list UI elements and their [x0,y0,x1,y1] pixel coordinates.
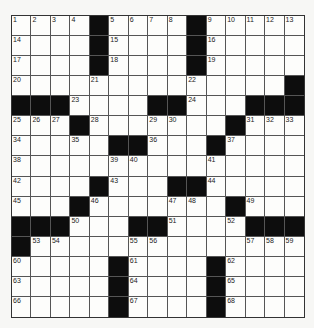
crossword-cell[interactable]: 39 [109,156,128,176]
crossword-cell[interactable] [148,177,167,197]
crossword-cell[interactable]: 24 [187,96,206,116]
crossword-cell[interactable]: 1 [12,16,31,36]
crossword-cell[interactable] [90,136,109,156]
crossword-cell[interactable] [148,36,167,56]
crossword-cell[interactable] [90,217,109,237]
crossword-cell[interactable]: 67 [129,297,148,317]
crossword-cell[interactable]: 34 [12,136,31,156]
crossword-cell[interactable] [90,156,109,176]
crossword-cell[interactable] [207,197,226,217]
crossword-cell[interactable] [90,297,109,317]
crossword-cell[interactable]: 60 [12,257,31,277]
crossword-cell[interactable]: 66 [12,297,31,317]
crossword-cell[interactable] [246,156,265,176]
crossword-cell[interactable] [31,257,50,277]
crossword-cell[interactable]: 36 [148,136,167,156]
crossword-cell[interactable] [70,257,89,277]
crossword-cell[interactable]: 23 [70,96,89,116]
crossword-cell[interactable]: 43 [109,177,128,197]
crossword-cell[interactable]: 41 [207,156,226,176]
crossword-cell[interactable] [90,237,109,257]
crossword-cell[interactable] [207,217,226,237]
crossword-cell[interactable] [226,156,245,176]
crossword-cell[interactable] [148,197,167,217]
crossword-cell[interactable] [51,56,70,76]
crossword-cell[interactable] [285,56,304,76]
crossword-cell[interactable]: 35 [70,136,89,156]
crossword-cell[interactable] [265,136,284,156]
crossword-cell[interactable] [168,56,187,76]
crossword-cell[interactable] [109,197,128,217]
crossword-cell[interactable] [109,217,128,237]
crossword-cell[interactable]: 26 [31,116,50,136]
crossword-cell[interactable] [129,197,148,217]
crossword-cell[interactable]: 7 [148,16,167,36]
crossword-cell[interactable] [70,237,89,257]
crossword-cell[interactable]: 48 [187,197,206,217]
crossword-cell[interactable] [31,76,50,96]
crossword-cell[interactable]: 22 [187,76,206,96]
crossword-cell[interactable] [207,76,226,96]
crossword-cell[interactable] [207,116,226,136]
crossword-cell[interactable] [129,116,148,136]
crossword-cell[interactable] [285,177,304,197]
crossword-cell[interactable]: 19 [207,56,226,76]
crossword-cell[interactable]: 56 [148,237,167,257]
crossword-cell[interactable]: 25 [12,116,31,136]
crossword-cell[interactable] [168,237,187,257]
crossword-cell[interactable]: 68 [226,297,245,317]
crossword-cell[interactable] [129,177,148,197]
crossword-cell[interactable] [187,257,206,277]
crossword-cell[interactable] [285,197,304,217]
crossword-cell[interactable]: 45 [12,197,31,217]
crossword-cell[interactable]: 12 [265,16,284,36]
crossword-cell[interactable] [70,177,89,197]
crossword-cell[interactable] [285,36,304,56]
crossword-cell[interactable] [226,56,245,76]
crossword-cell[interactable]: 59 [285,237,304,257]
crossword-cell[interactable] [70,297,89,317]
crossword-cell[interactable]: 17 [12,56,31,76]
crossword-cell[interactable] [285,257,304,277]
crossword-cell[interactable]: 10 [226,16,245,36]
crossword-cell[interactable]: 13 [285,16,304,36]
crossword-cell[interactable]: 9 [207,16,226,36]
crossword-cell[interactable]: 6 [129,16,148,36]
crossword-cell[interactable] [129,76,148,96]
crossword-cell[interactable] [246,136,265,156]
crossword-cell[interactable] [168,136,187,156]
crossword-cell[interactable] [285,277,304,297]
crossword-cell[interactable] [90,257,109,277]
crossword-cell[interactable]: 30 [168,116,187,136]
crossword-cell[interactable]: 50 [70,217,89,237]
crossword-cell[interactable] [90,277,109,297]
crossword-cell[interactable] [265,257,284,277]
crossword-cell[interactable] [265,197,284,217]
crossword-cell[interactable]: 21 [90,76,109,96]
crossword-cell[interactable] [265,277,284,297]
crossword-cell[interactable] [168,36,187,56]
crossword-cell[interactable] [265,36,284,56]
crossword-cell[interactable]: 64 [129,277,148,297]
crossword-cell[interactable] [187,297,206,317]
crossword-cell[interactable] [51,177,70,197]
crossword-cell[interactable] [51,297,70,317]
crossword-cell[interactable]: 14 [12,36,31,56]
crossword-cell[interactable]: 2 [31,16,50,36]
crossword-cell[interactable] [31,297,50,317]
crossword-cell[interactable] [148,297,167,317]
crossword-cell[interactable] [246,36,265,56]
crossword-cell[interactable] [31,136,50,156]
crossword-cell[interactable] [246,297,265,317]
crossword-cell[interactable] [51,257,70,277]
crossword-cell[interactable] [51,197,70,217]
crossword-cell[interactable] [90,96,109,116]
crossword-cell[interactable]: 47 [168,197,187,217]
crossword-cell[interactable] [31,277,50,297]
crossword-cell[interactable] [129,96,148,116]
crossword-cell[interactable] [70,76,89,96]
crossword-cell[interactable]: 46 [90,197,109,217]
crossword-cell[interactable] [246,177,265,197]
crossword-cell[interactable] [265,297,284,317]
crossword-cell[interactable]: 16 [207,36,226,56]
